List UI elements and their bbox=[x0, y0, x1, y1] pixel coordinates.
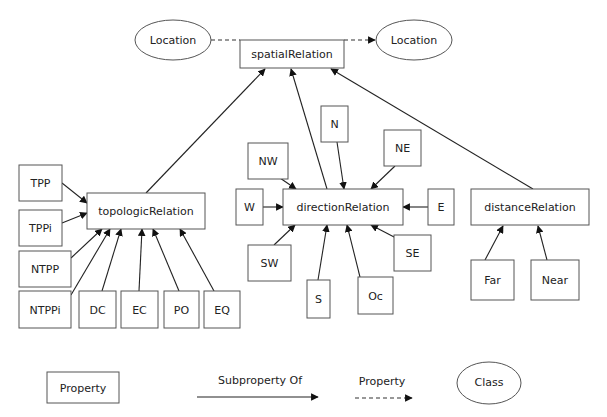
node-TPPi: TPPi bbox=[19, 210, 62, 246]
node-NE: NE bbox=[384, 130, 421, 166]
edge-EQ-to-topo bbox=[180, 229, 214, 291]
edge-S-to-dir bbox=[318, 225, 327, 280]
node-SW: SW bbox=[248, 245, 291, 281]
node-Far: Far bbox=[471, 260, 514, 300]
node-DC: DC bbox=[79, 291, 116, 328]
node-W: W bbox=[236, 189, 263, 225]
node-EQ: EQ bbox=[204, 291, 240, 328]
node-label: NTPPi bbox=[29, 304, 60, 317]
edge-SE-to-dir bbox=[371, 225, 396, 238]
node-SE: SE bbox=[394, 235, 431, 271]
node-NTPP: NTPP bbox=[19, 251, 71, 287]
legend: Property Subproperty Of Property Class bbox=[47, 362, 521, 404]
node-label: SW bbox=[261, 257, 279, 270]
node-NTPPi: NTPPi bbox=[19, 291, 71, 328]
legend-property-arrow: Property bbox=[355, 375, 412, 398]
node-label: NTPP bbox=[31, 263, 60, 276]
node-label: Oc bbox=[368, 290, 383, 303]
edge-SW-to-dir bbox=[274, 225, 295, 245]
node-S: S bbox=[307, 280, 330, 318]
node-label: Near bbox=[542, 274, 569, 287]
node-label: DC bbox=[89, 304, 105, 317]
node-label: SE bbox=[406, 247, 420, 260]
node-loc1: Location bbox=[135, 20, 211, 60]
node-spatial: spatialRelation bbox=[240, 40, 344, 68]
node-label: spatialRelation bbox=[251, 48, 332, 61]
node-label: directionRelation bbox=[297, 201, 390, 214]
node-label: EC bbox=[132, 304, 147, 317]
edge-topo-to-spatial bbox=[146, 69, 265, 193]
edge-PO-to-topo bbox=[153, 229, 179, 291]
node-dist: distanceRelation bbox=[471, 189, 589, 225]
node-label: S bbox=[315, 293, 322, 306]
legend-class-label: Class bbox=[475, 376, 504, 389]
node-label: Far bbox=[484, 274, 501, 287]
edge-NW-to-dir bbox=[280, 178, 296, 189]
node-EC: EC bbox=[121, 291, 158, 328]
edge-NE-to-dir bbox=[371, 166, 395, 189]
node-label: Location bbox=[391, 34, 438, 47]
node-dir: directionRelation bbox=[283, 189, 403, 225]
legend-class-ellipse: Class bbox=[457, 362, 521, 404]
node-label: TPPi bbox=[28, 222, 52, 235]
node-label: W bbox=[244, 201, 255, 214]
node-TPP: TPP bbox=[19, 165, 62, 201]
edge-dist-to-spatial bbox=[331, 69, 533, 189]
node-NW: NW bbox=[248, 143, 288, 179]
legend-property-arrow-label: Property bbox=[359, 375, 406, 388]
node-N: N bbox=[321, 106, 348, 142]
ontology-diagram: LocationspatialRelationLocationtopologic… bbox=[0, 0, 607, 417]
node-label: PO bbox=[174, 304, 190, 317]
node-Near: Near bbox=[531, 260, 579, 300]
diagram-canvas: LocationspatialRelationLocationtopologic… bbox=[0, 0, 607, 417]
legend-property-box: Property bbox=[47, 372, 119, 403]
node-label: N bbox=[330, 118, 338, 131]
legend-subproperty-label: Subproperty Of bbox=[218, 374, 303, 387]
edge-TPP-to-topo bbox=[62, 183, 87, 203]
node-label: EQ bbox=[214, 304, 230, 317]
node-label: E bbox=[438, 201, 445, 214]
legend-subproperty-arrow: Subproperty Of bbox=[197, 374, 318, 397]
edge-TPPi-to-topo bbox=[62, 213, 87, 223]
edge-NTPP-to-topo bbox=[71, 229, 102, 258]
node-label: NW bbox=[258, 155, 277, 168]
node-label: distanceRelation bbox=[484, 201, 575, 214]
edge-EC-to-topo bbox=[139, 229, 142, 291]
node-label: topologicRelation bbox=[98, 205, 193, 218]
node-label: NE bbox=[395, 142, 410, 155]
node-label: Location bbox=[150, 34, 197, 47]
node-E: E bbox=[428, 189, 454, 225]
edge-Near-to-dist bbox=[538, 226, 547, 260]
node-topo: topologicRelation bbox=[87, 193, 205, 229]
edge-N-to-dir bbox=[337, 142, 344, 189]
node-PO: PO bbox=[164, 291, 199, 328]
node-Oc: Oc bbox=[358, 277, 393, 314]
edges-layer bbox=[62, 40, 547, 295]
legend-property-box-label: Property bbox=[60, 382, 107, 395]
node-label: TPP bbox=[30, 177, 51, 190]
edge-Far-to-dist bbox=[485, 226, 503, 260]
node-loc2: Location bbox=[376, 20, 452, 60]
edge-Oc-to-dir bbox=[347, 225, 360, 277]
